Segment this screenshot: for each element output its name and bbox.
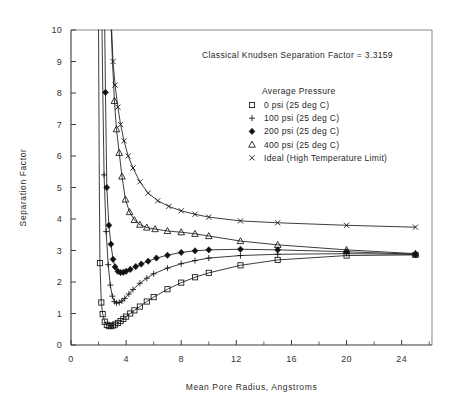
y-tick-label: 6 — [57, 151, 62, 161]
x-tick-label: 8 — [179, 354, 184, 364]
legend-item: Ideal (High Temperature Limit) — [249, 153, 387, 163]
y-tick-label: 0 — [57, 340, 62, 350]
x-tick-label: 4 — [123, 354, 128, 364]
chart-annotation: Classical Knudsen Separation Factor = 3.… — [202, 50, 393, 60]
x-axis-title: Mean Pore Radius, Angstroms — [186, 382, 317, 392]
y-tick-label: 9 — [57, 57, 62, 67]
legend-title: Average Pressure — [262, 86, 335, 96]
y-tick-label: 4 — [57, 214, 62, 224]
x-tick-label: 20 — [341, 354, 352, 364]
legend-item-label: Ideal (High Temperature Limit) — [264, 153, 387, 163]
y-tick-label: 7 — [57, 120, 62, 130]
y-tick-label: 5 — [57, 183, 62, 193]
legend-item-label: 200 psi (25 deg C) — [264, 126, 339, 136]
legend-item-label: 0 psi (25 deg C) — [264, 100, 329, 110]
y-tick-label: 3 — [57, 246, 62, 256]
legend-item-label: 400 psi (25 deg C) — [264, 140, 339, 150]
y-tick-label: 8 — [57, 88, 62, 98]
x-tick-label: 0 — [68, 354, 73, 364]
chart-background — [0, 0, 455, 412]
knudsen-factor-annotation: Classical Knudsen Separation Factor = 3.… — [202, 50, 393, 60]
legend-item-label: 100 psi (25 deg C) — [264, 113, 339, 123]
y-tick-label: 10 — [51, 25, 62, 35]
y-tick-label: 1 — [57, 309, 62, 319]
x-tick-label: 12 — [231, 354, 242, 364]
y-tick-label: 2 — [57, 277, 62, 287]
separation-factor-chart: 01234567891004812162024 Mean Pore Radius… — [0, 0, 455, 412]
x-tick-label: 24 — [396, 354, 407, 364]
y-axis-title: Separation Factor — [18, 149, 28, 227]
x-tick-label: 16 — [286, 354, 297, 364]
